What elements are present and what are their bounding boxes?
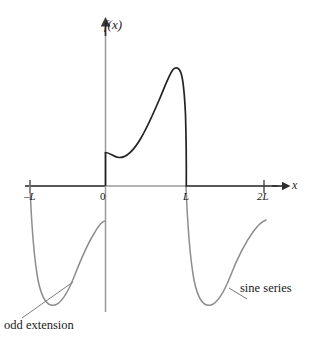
sine-series-label: sine series: [240, 282, 292, 295]
axis-group: [25, 25, 283, 312]
x-tick-label-minus-L: –L: [24, 191, 36, 202]
odd-extension-leader-line: [22, 282, 73, 318]
x-axis-label: x: [292, 179, 297, 191]
figure-canvas: f(x) x –L 0 L 2L odd extension sine seri…: [0, 0, 316, 337]
main-function-curve: [106, 68, 187, 186]
x-tick-label-2L: 2L: [257, 191, 269, 202]
y-axis-label: f(x): [104, 18, 122, 31]
odd-extension-curve: [30, 186, 105, 305]
odd-extension-label: odd extension: [4, 319, 74, 332]
x-tick-label-L: L: [183, 191, 189, 202]
main-curve-path: [106, 68, 187, 186]
leader-lines: [22, 282, 247, 318]
x-tick-label-zero: 0: [100, 191, 106, 202]
